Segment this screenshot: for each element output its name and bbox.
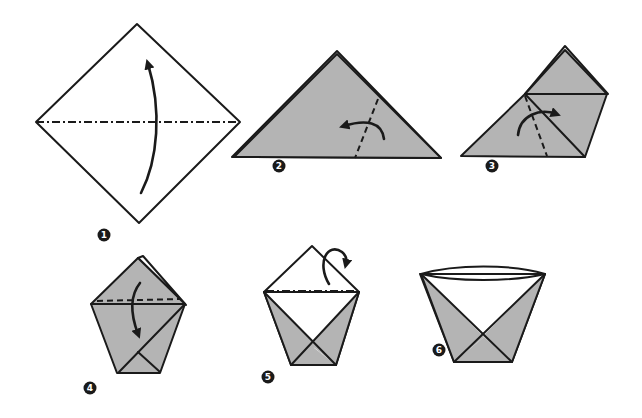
step-badge: 4 [84, 382, 97, 395]
step-3: 3 [461, 46, 608, 173]
triangle-paper [234, 54, 441, 158]
top-flap [525, 50, 607, 94]
step-badge: 3 [486, 160, 499, 173]
body-paper [91, 304, 185, 373]
step-badge: 2 [273, 160, 286, 173]
step-number: 4 [87, 383, 93, 393]
step-4: 4 [84, 256, 187, 395]
step-number: 6 [436, 345, 442, 355]
top-flap [91, 258, 185, 304]
step-1: 1 [36, 24, 240, 242]
step-badge: 6 [433, 344, 446, 357]
step-number: 5 [265, 372, 271, 382]
step-badge: 1 [98, 229, 111, 242]
step-6: 6 [420, 267, 545, 363]
step-number: 3 [489, 161, 495, 171]
origami-diagram: 1 2 3 4 [0, 0, 642, 418]
step-2: 2 [232, 51, 441, 173]
step-number: 1 [101, 230, 107, 240]
step-5: 5 [262, 246, 360, 384]
step-number: 2 [276, 161, 282, 171]
square-paper [36, 24, 240, 223]
step-badge: 5 [262, 371, 275, 384]
